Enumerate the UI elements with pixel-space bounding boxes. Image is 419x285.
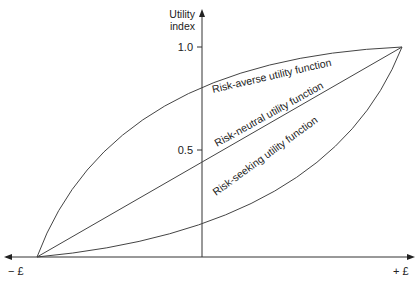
x-axis-left-arrow-icon (4, 254, 12, 260)
y-axis-arrow-icon (199, 9, 205, 17)
risk-neutral-line (37, 47, 402, 257)
x-label-negative: − £ (8, 265, 24, 277)
tick-label-0-5: 0.5 (178, 144, 193, 156)
utility-function-chart: Utility index 1.0 0.5 − £ + £ Risk-avers… (0, 0, 419, 285)
tick-label-1-0: 1.0 (178, 41, 193, 53)
x-label-positive: + £ (393, 265, 409, 277)
y-label-line2: index (170, 20, 196, 32)
y-label-line1: Utility (169, 8, 195, 20)
chart-canvas: Utility index 1.0 0.5 − £ + £ Risk-avers… (0, 0, 419, 285)
x-axis-right-arrow-icon (407, 254, 415, 260)
